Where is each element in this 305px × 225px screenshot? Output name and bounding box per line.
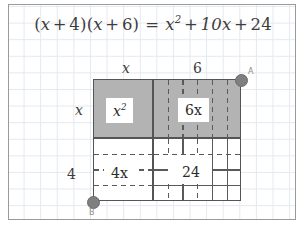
drag-point-a-label: A — [248, 67, 253, 76]
equation-right-variable: x — [93, 15, 103, 34]
applet-frame: (x+4)(x+6)=x2+10x+24 x 6 x 4 x2 6x — [8, 4, 296, 220]
equation-right-plus: + — [103, 15, 122, 34]
equation-left-plus: + — [50, 15, 69, 34]
region-twenty-four-label: 24 — [175, 160, 207, 184]
equation-plus-two: + — [231, 15, 250, 34]
dimension-left-x-text: x — [75, 102, 83, 118]
region-x-squared-exponent: 2 — [121, 102, 127, 112]
dimension-left-four-text: 4 — [67, 166, 76, 182]
region-four-x[interactable]: 4x — [93, 138, 153, 201]
equation-equals-sign: = — [139, 15, 165, 34]
region-x-squared[interactable]: x2 — [93, 79, 153, 138]
region-x-squared-base: x — [113, 103, 121, 119]
dimension-label-left-four: 4 — [67, 167, 76, 181]
region-four-x-label: 4x — [104, 161, 135, 185]
region-x-squared-label: x2 — [106, 98, 133, 123]
area-model[interactable]: x2 6x 4x 24 — [93, 79, 241, 201]
drag-point-a[interactable] — [235, 74, 248, 87]
drag-point-b-label: B — [89, 208, 95, 217]
equation-linear-term: 10x — [201, 15, 232, 34]
equation-expression: (x+4)(x+6)=x2+10x+24 — [19, 14, 287, 34]
dimension-label-top-six: 6 — [193, 61, 202, 75]
region-six-x[interactable]: 6x — [153, 79, 241, 138]
dimension-label-left-x: x — [75, 103, 83, 117]
equation-left-variable: x — [41, 15, 51, 34]
region-six-x-label: 6x — [178, 98, 209, 122]
equation-constant-term: 24 — [250, 15, 271, 34]
applet-root: (x+4)(x+6)=x2+10x+24 x 6 x 4 x2 6x — [0, 0, 305, 225]
dimension-label-top-x: x — [122, 61, 130, 75]
dimension-top-x-text: x — [122, 60, 130, 76]
equation-left-open-paren: ( — [34, 15, 41, 34]
equation-left-constant: 4 — [69, 15, 80, 34]
equation-right-constant: 6 — [122, 15, 133, 34]
equation-plus-one: + — [181, 15, 200, 34]
region-twenty-four[interactable]: 24 — [153, 138, 241, 201]
equation-square-base: x — [165, 15, 175, 34]
dimension-top-six-text: 6 — [193, 60, 202, 76]
equation-left-close-paren: ) — [80, 15, 87, 34]
